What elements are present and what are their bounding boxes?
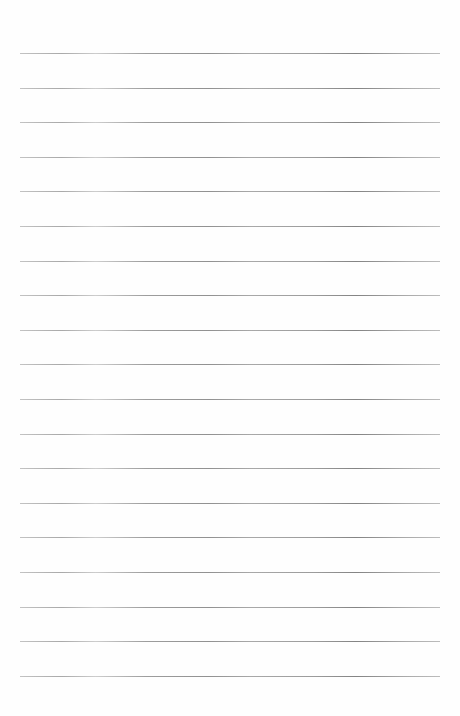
ruled-line [20,261,440,262]
ruled-line [20,88,440,89]
ruled-line [20,364,440,365]
ruled-line [20,468,440,469]
ruled-line [20,676,440,677]
ruled-line [20,330,440,331]
ruled-line [20,503,440,504]
ruled-line [20,572,440,573]
ruled-line [20,641,440,642]
ruled-line [20,399,440,400]
ruled-line [20,157,440,158]
ruled-line [20,53,440,54]
ruled-line [20,191,440,192]
ruled-line [20,537,440,538]
ruled-line [20,295,440,296]
ruled-line [20,122,440,123]
ruled-line [20,607,440,608]
ruled-line [20,226,440,227]
lined-paper-page [0,0,460,716]
ruled-line [20,434,440,435]
